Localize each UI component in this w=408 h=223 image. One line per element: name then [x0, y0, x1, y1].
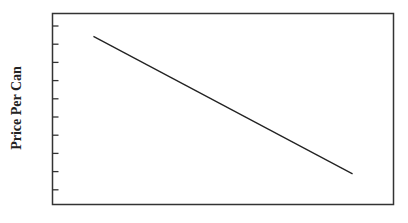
y-axis-ticks: [53, 26, 59, 190]
line-chart: [0, 0, 408, 223]
demand-line: [93, 36, 352, 174]
y-axis-label: Price Per Can: [9, 66, 25, 150]
